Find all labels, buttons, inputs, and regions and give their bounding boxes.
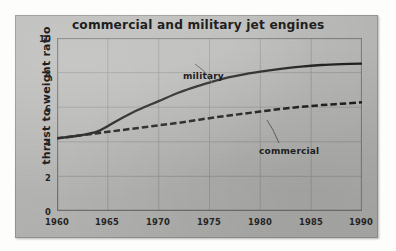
- series-label-commercial: commercial: [259, 146, 319, 156]
- chart-title: commercial and military jet engines: [72, 18, 372, 32]
- page-background: commercial and military jet engines thru…: [0, 0, 396, 251]
- chart-svg: [57, 38, 362, 211]
- x-tick-label-1975: 1975: [191, 217, 227, 227]
- y-tick-label-0: 0: [33, 207, 51, 217]
- x-tick-label-1970: 1970: [140, 217, 176, 227]
- x-tick-label-1965: 1965: [89, 217, 125, 227]
- y-tick-label-10: 10: [33, 34, 51, 44]
- x-tick-label-1990: 1990: [343, 217, 378, 227]
- leader-line-commercial: [267, 120, 279, 143]
- y-tick-label-6: 6: [33, 104, 51, 114]
- x-tick-label-1980: 1980: [242, 217, 278, 227]
- vertical-gridlines: [108, 38, 311, 211]
- y-tick-label-2: 2: [33, 173, 51, 183]
- plot-area: [57, 38, 362, 211]
- series-label-military: military: [183, 71, 224, 81]
- x-tick-label-1985: 1985: [293, 217, 329, 227]
- chart-figure: commercial and military jet engines thru…: [15, 15, 378, 238]
- y-tick-label-4: 4: [33, 138, 51, 148]
- y-tick-label-8: 8: [33, 69, 51, 79]
- x-tick-label-1960: 1960: [39, 217, 75, 227]
